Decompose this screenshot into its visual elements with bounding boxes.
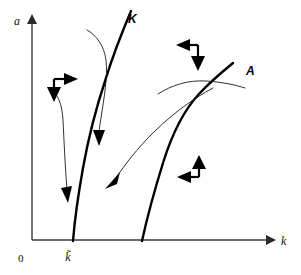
cluster-upper-right	[176, 39, 205, 71]
cluster-upper-left	[47, 73, 78, 102]
cluster-upper-right-down-arrowhead	[191, 56, 205, 71]
cluster-upper-left-right-arrowhead	[64, 73, 78, 85]
cluster-upper-right-left-arrowhead	[176, 39, 190, 51]
y-axis-label: a	[14, 14, 20, 28]
x-axis-arrowhead	[266, 235, 276, 245]
trajectory-upper-left-down-arrowhead	[93, 130, 105, 146]
y-axis-arrowhead	[27, 14, 37, 24]
origin-label: 0	[18, 252, 24, 264]
curve-A	[142, 63, 233, 241]
figure-canvas: a k 0 k̃ K A	[0, 0, 301, 275]
k-tilde-tick-label: k̃	[65, 250, 71, 264]
curve-A-label: A	[245, 64, 255, 78]
cluster-lower-right-up-arrowhead	[192, 155, 206, 169]
phase-diagram: a k 0 k̃ K A	[0, 0, 301, 275]
trajectory-left-down-group	[50, 88, 72, 203]
axes-group	[27, 14, 276, 245]
trajectory-right-downleft-arrowhead	[105, 172, 120, 189]
curve-K-label: K	[128, 12, 138, 26]
trajectory-left-down-arrowhead	[61, 186, 72, 203]
x-axis-label: k	[281, 234, 287, 248]
cluster-lower-right	[177, 155, 206, 183]
cluster-lower-right-left-arrowhead	[177, 171, 191, 183]
trajectory-left-down	[50, 88, 67, 190]
